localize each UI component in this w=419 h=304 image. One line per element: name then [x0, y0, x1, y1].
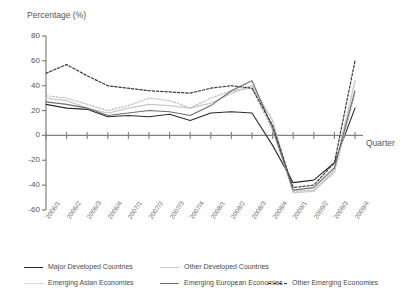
- legend-swatch-icon: [160, 267, 179, 268]
- series-line-4: [46, 61, 355, 188]
- legend-item[interactable]: Emerging Asian Economies: [24, 276, 134, 290]
- chart-legend: Major Developed CountriesOther Developed…: [0, 258, 419, 304]
- series-line-2: [46, 88, 355, 191]
- legend-item[interactable]: Other Developed Countries: [160, 260, 269, 274]
- legend-swatch-icon: [268, 283, 287, 284]
- line-chart: Percentage (%) Quarter 806040200-20-40-6…: [0, 0, 419, 304]
- legend-item[interactable]: Emerging European Economies: [160, 276, 283, 290]
- series-line-0: [46, 104, 355, 182]
- series-line-1: [46, 81, 355, 193]
- legend-item[interactable]: Other Emerging Economies: [268, 276, 378, 290]
- legend-swatch-icon: [160, 283, 179, 284]
- legend-swatch-icon: [24, 283, 43, 284]
- legend-label: Other Developed Countries: [184, 260, 269, 274]
- legend-item[interactable]: Major Developed Countries: [24, 260, 133, 274]
- legend-label: Other Emerging Economies: [292, 276, 378, 290]
- legend-label: Emerging Asian Economies: [48, 276, 134, 290]
- legend-swatch-icon: [24, 267, 43, 268]
- legend-label: Major Developed Countries: [48, 260, 133, 274]
